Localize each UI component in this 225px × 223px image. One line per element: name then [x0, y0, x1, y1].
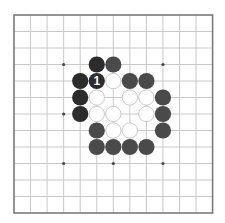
star-point — [62, 63, 65, 66]
star-point — [161, 162, 164, 165]
move-number-label: 1 — [93, 74, 100, 88]
go-board-svg: 1 — [0, 0, 225, 223]
black-stone — [122, 139, 138, 155]
black-stone — [72, 106, 88, 122]
white-stone — [106, 73, 121, 88]
white-stone — [122, 123, 137, 138]
white-stone — [106, 106, 121, 121]
star-point — [62, 112, 65, 115]
white-stone — [89, 90, 104, 105]
white-stone — [106, 123, 121, 138]
black-stone — [155, 106, 171, 122]
black-stone — [89, 56, 105, 72]
star-point — [161, 63, 164, 66]
black-stone — [72, 73, 88, 89]
black-stone — [89, 122, 105, 138]
black-stone — [155, 89, 171, 105]
black-stone — [105, 56, 121, 72]
star-point — [62, 162, 65, 165]
black-stone: 1 — [89, 73, 105, 89]
white-stone — [139, 106, 154, 121]
black-stone — [155, 122, 171, 138]
stones: 1 — [72, 56, 171, 155]
white-stone — [122, 90, 137, 105]
go-board: 1 — [0, 0, 225, 223]
black-stone — [72, 89, 88, 105]
black-stone — [138, 139, 154, 155]
black-stone — [122, 73, 138, 89]
white-stone — [89, 106, 104, 121]
black-stone — [138, 73, 154, 89]
black-stone — [89, 139, 105, 155]
star-point — [112, 162, 115, 165]
white-stone — [139, 90, 154, 105]
black-stone — [105, 139, 121, 155]
